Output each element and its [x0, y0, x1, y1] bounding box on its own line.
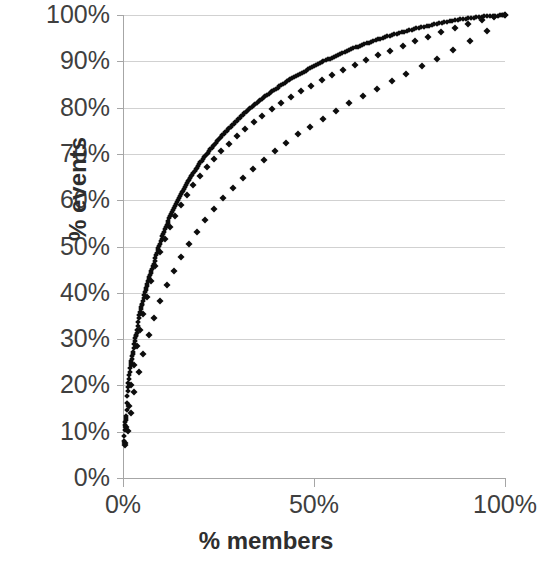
- data-point: [318, 77, 325, 84]
- data-point: [210, 155, 217, 162]
- x-axis-tick-label: 0%: [63, 492, 183, 517]
- data-point: [239, 175, 246, 182]
- data-point: [135, 369, 142, 376]
- data-point: [451, 24, 458, 31]
- data-point: [193, 228, 200, 235]
- y-axis-tick-label: 60%: [0, 187, 110, 212]
- data-point: [294, 131, 301, 138]
- y-axis-tick-label: 40%: [0, 280, 110, 305]
- data-point: [152, 262, 159, 269]
- y-axis-tick-label: 100%: [0, 2, 110, 27]
- data-point: [218, 148, 225, 155]
- data-point: [271, 148, 278, 155]
- data-point: [359, 92, 366, 99]
- data-point: [157, 298, 164, 305]
- data-point: [307, 123, 314, 130]
- data-point: [145, 332, 152, 339]
- data-point: [233, 133, 240, 140]
- y-axis-tick-label: 20%: [0, 372, 110, 397]
- y-axis-tick-label: 80%: [0, 95, 110, 120]
- plot-area: [123, 15, 505, 478]
- data-point: [229, 185, 236, 192]
- data-point: [131, 389, 138, 396]
- data-point: [225, 140, 232, 147]
- data-point: [259, 112, 266, 119]
- data-point: [151, 314, 158, 321]
- data-point: [249, 166, 256, 173]
- x-axis-tick-mark: [505, 479, 506, 487]
- data-point: [464, 20, 471, 27]
- data-point: [307, 82, 314, 89]
- data-point: [184, 192, 191, 199]
- data-point: [140, 350, 147, 357]
- data-point: [260, 156, 267, 163]
- y-axis-tick-label: 70%: [0, 141, 110, 166]
- data-point: [466, 37, 473, 44]
- data-point: [172, 212, 179, 219]
- y-axis-tick-label: 30%: [0, 326, 110, 351]
- data-point: [450, 47, 457, 54]
- data-point: [412, 38, 419, 45]
- data-point: [170, 267, 177, 274]
- data-point: [287, 94, 294, 101]
- data-point: [438, 29, 445, 36]
- data-point: [196, 173, 203, 180]
- x-axis-tick-label: 100%: [445, 492, 541, 517]
- data-point: [140, 310, 147, 317]
- x-axis-tick-mark: [123, 479, 124, 487]
- y-axis-tick-label: 50%: [0, 234, 110, 259]
- x-axis-tick-label: 50%: [254, 492, 374, 517]
- data-point: [278, 100, 285, 107]
- y-axis-title: % events: [64, 109, 92, 269]
- data-point: [332, 107, 339, 114]
- data-point: [268, 106, 275, 113]
- y-axis-tick-label: 0%: [0, 465, 110, 490]
- data-point: [351, 61, 358, 68]
- data-point: [329, 72, 336, 79]
- data-point: [163, 282, 170, 289]
- data-point: [242, 126, 249, 133]
- data-point: [297, 88, 304, 95]
- data-point: [388, 78, 395, 85]
- data-point: [363, 56, 370, 63]
- data-point: [178, 202, 185, 209]
- data-point: [190, 182, 197, 189]
- data-point: [319, 115, 326, 122]
- data-point: [250, 119, 257, 126]
- data-point: [403, 70, 410, 77]
- x-axis-tick-mark: [314, 479, 315, 487]
- data-point: [210, 205, 217, 212]
- data-point: [425, 33, 432, 40]
- data-point: [202, 217, 209, 224]
- data-point: [483, 27, 490, 34]
- data-point: [220, 195, 227, 202]
- data-point: [178, 253, 185, 260]
- data-point: [283, 139, 290, 146]
- data-point: [203, 164, 210, 171]
- data-point: [375, 52, 382, 59]
- data-point: [387, 47, 394, 54]
- data-point: [434, 55, 441, 62]
- data-point: [346, 100, 353, 107]
- data-point: [399, 42, 406, 49]
- data-point: [166, 224, 173, 231]
- x-axis-title: % members: [0, 527, 532, 555]
- data-point: [340, 67, 347, 74]
- y-axis-tick-label: 90%: [0, 48, 110, 73]
- data-point: [373, 85, 380, 92]
- y-axis-tick-label: 10%: [0, 419, 110, 444]
- data-point: [185, 240, 192, 247]
- data-point: [418, 63, 425, 70]
